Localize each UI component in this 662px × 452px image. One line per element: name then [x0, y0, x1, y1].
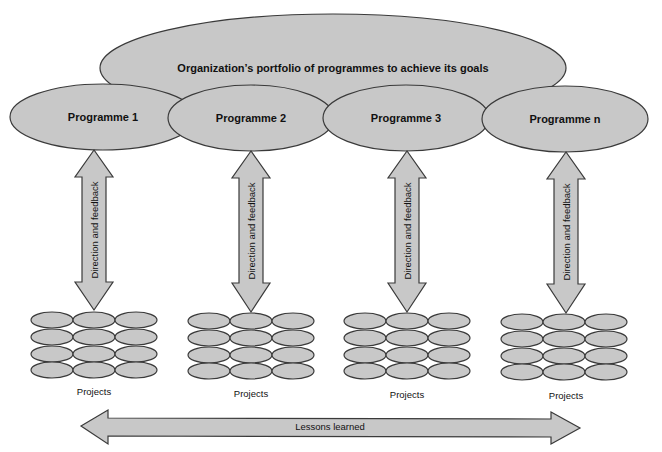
project-group-2: Projects — [188, 313, 314, 399]
lessons-learned-arrow: Lessons learned — [81, 410, 580, 444]
project-group-3: Projects — [344, 313, 470, 400]
lessons-learned-label: Lessons learned — [295, 421, 365, 432]
direction-arrow-2: Direction and feedback — [232, 151, 270, 312]
diagram-canvas: Organization’s portfolio of programmes t… — [0, 0, 662, 452]
direction-arrow-2-label: Direction and feedback — [246, 182, 257, 279]
programme-3-label: Programme 3 — [371, 112, 441, 124]
programme-n-label: Programme n — [530, 113, 601, 125]
direction-arrow-3-label: Direction and feedback — [402, 182, 413, 279]
project-group-n: Projects — [501, 314, 627, 401]
project-group-3-label: Projects — [390, 389, 425, 400]
project-group-2-label: Projects — [234, 388, 269, 399]
direction-arrow-3: Direction and feedback — [388, 151, 426, 312]
direction-arrow-1-label: Direction and feedback — [89, 181, 100, 278]
direction-arrow-1: Direction and feedback — [75, 150, 113, 310]
programme-n: Programme n — [482, 86, 648, 152]
programme-1-label: Programme 1 — [68, 111, 138, 123]
programme-3: Programme 3 — [323, 85, 489, 151]
project-group-n-label: Projects — [549, 390, 584, 401]
direction-arrow-n-label: Direction and feedback — [561, 183, 572, 280]
project-group-1: Projects — [31, 312, 157, 397]
programme-2: Programme 2 — [168, 85, 334, 151]
direction-arrow-n: Direction and feedback — [547, 152, 585, 313]
portfolio-label: Organization’s portfolio of programmes t… — [177, 62, 488, 74]
project-group-1-label: Projects — [77, 386, 112, 397]
programme-2-label: Programme 2 — [216, 112, 286, 124]
